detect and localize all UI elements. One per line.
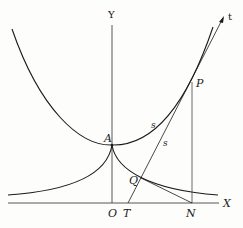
catenary-tractrix-diagram: Y X O T N A P Q t s s [0,0,243,228]
x-axis-label: X [222,197,232,210]
origin-label: O [108,207,117,220]
tangent-arrow-icon [219,16,224,23]
tractrix-left [8,145,112,195]
point-t-label: T [123,207,132,220]
point-n-label: N [185,207,196,220]
tangent-s-label: s [163,138,168,148]
catenary-curve [12,27,213,145]
point-p-label: P [195,77,204,90]
point-q-label: Q [129,174,138,187]
tractrix-right [112,145,218,195]
y-axis-label: Y [107,9,115,20]
vertex-a-label: A [103,132,112,145]
tangent-t-label: t [228,11,232,22]
arc-s-label: s [151,120,156,130]
tangent-line [128,18,223,203]
